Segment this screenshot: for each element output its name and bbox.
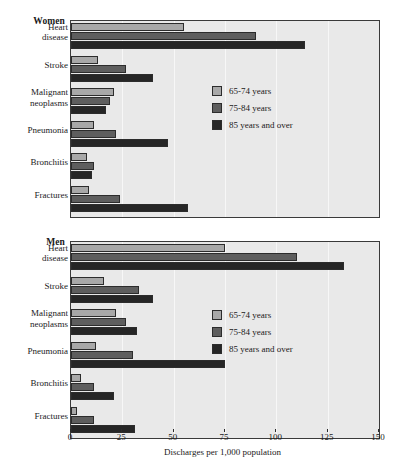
axis-tick-label: 150	[371, 432, 385, 442]
grouped-bar-chart-figure: Women Heart diseaseStrokeMalignant neopl…	[0, 0, 409, 476]
bar-group: Pneumonia	[0, 341, 409, 372]
legend-item: 65-74 years	[212, 306, 332, 323]
legend-swatch-icon	[212, 103, 222, 113]
bar	[71, 327, 137, 335]
bar	[71, 139, 168, 147]
legend-label: 75-84 years	[229, 327, 271, 337]
bar	[71, 351, 133, 359]
bar	[71, 153, 87, 161]
bar	[71, 74, 153, 82]
x-axis-title: Discharges per 1,000 population	[0, 447, 409, 457]
axis-tick-label: 50	[168, 432, 177, 442]
bar	[71, 23, 184, 31]
panel-women: Women Heart diseaseStrokeMalignant neopl…	[0, 10, 409, 222]
axis-tick-label: 0	[68, 432, 73, 442]
panel-men: Men Heart diseaseStrokeMalignant neoplas…	[0, 231, 409, 443]
category-label: Malignant neoplasms	[0, 87, 68, 108]
bar-group: Fractures	[0, 185, 409, 216]
bar	[71, 121, 94, 129]
bar	[71, 204, 188, 212]
x-axis-title-text: Discharges per 1,000 population	[164, 447, 281, 457]
category-label: Fractures	[0, 411, 68, 421]
legend-swatch-icon	[212, 86, 222, 96]
bar-group: Heart disease	[0, 22, 409, 53]
bar	[71, 162, 94, 170]
bar	[71, 383, 94, 391]
bar	[71, 56, 98, 64]
bar-group: Stroke	[0, 276, 409, 307]
category-label: Heart disease	[0, 243, 68, 264]
category-label: Fractures	[0, 190, 68, 200]
bar	[71, 342, 96, 350]
bar-group: Bronchitis	[0, 152, 409, 183]
bar	[71, 65, 126, 73]
axis-tick-label: 25	[117, 432, 126, 442]
bar	[71, 130, 116, 138]
legend-swatch-icon	[212, 120, 222, 130]
legend-item: 75-84 years	[212, 323, 332, 340]
category-label: Stroke	[0, 60, 68, 70]
legend-women: 65-74 years75-84 years85 years and over	[212, 82, 332, 133]
category-label: Stroke	[0, 281, 68, 291]
bar	[71, 262, 344, 270]
x-axis: 0255075100125150	[70, 429, 380, 443]
legend-label: 65-74 years	[229, 86, 271, 96]
bar	[71, 253, 297, 261]
legend-item: 65-74 years	[212, 82, 332, 99]
bar	[71, 244, 225, 252]
legend-item: 85 years and over	[212, 116, 332, 133]
legend-swatch-icon	[212, 344, 222, 354]
legend-men: 65-74 years75-84 years85 years and over	[212, 306, 332, 357]
bar-group: Stroke	[0, 55, 409, 86]
category-label: Pneumonia	[0, 346, 68, 356]
bar	[71, 186, 89, 194]
legend-label: 85 years and over	[229, 120, 293, 130]
legend-item: 75-84 years	[212, 99, 332, 116]
category-label: Malignant neoplasms	[0, 308, 68, 329]
legend-label: 85 years and over	[229, 344, 293, 354]
bar	[71, 295, 153, 303]
bar	[71, 106, 106, 114]
axis-tick-label: 75	[220, 432, 229, 442]
bar-group: Bronchitis	[0, 373, 409, 404]
category-label: Bronchitis	[0, 157, 68, 167]
axis-tick-label: 100	[269, 432, 283, 442]
bar	[71, 32, 256, 40]
category-label: Heart disease	[0, 22, 68, 43]
bar-group: Malignant neoplasms	[0, 87, 409, 118]
bar-group: Malignant neoplasms	[0, 308, 409, 339]
bar	[71, 171, 92, 179]
category-label: Pneumonia	[0, 125, 68, 135]
legend-swatch-icon	[212, 310, 222, 320]
bar	[71, 88, 114, 96]
bar	[71, 416, 94, 424]
bar	[71, 309, 116, 317]
bar	[71, 360, 225, 368]
bar	[71, 97, 110, 105]
legend-label: 65-74 years	[229, 310, 271, 320]
bar	[71, 286, 139, 294]
legend-label: 75-84 years	[229, 103, 271, 113]
bar	[71, 195, 120, 203]
bar	[71, 318, 126, 326]
axis-tick-label: 125	[320, 432, 334, 442]
category-label: Bronchitis	[0, 378, 68, 388]
bar-group: Heart disease	[0, 243, 409, 274]
bar-group: Pneumonia	[0, 120, 409, 151]
legend-swatch-icon	[212, 327, 222, 337]
bar	[71, 374, 81, 382]
bar	[71, 392, 114, 400]
legend-item: 85 years and over	[212, 340, 332, 357]
bar	[71, 41, 305, 49]
bar	[71, 277, 104, 285]
bar	[71, 407, 77, 415]
